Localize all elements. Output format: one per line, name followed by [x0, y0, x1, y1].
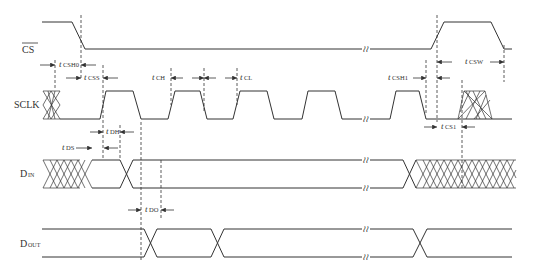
- timing-css: t CSS: [66, 72, 118, 82]
- svg-text:CSH1: CSH1: [392, 74, 408, 81]
- svg-text:CH: CH: [156, 74, 165, 81]
- svg-text:DS: DS: [66, 144, 75, 151]
- svg-text:CS: CS: [22, 44, 34, 55]
- sclk-label: SCLK: [14, 99, 40, 110]
- break-icon: ≀≀: [362, 183, 369, 193]
- svg-text:t: t: [441, 121, 444, 131]
- svg-text:DH: DH: [110, 128, 120, 135]
- svg-text:CL: CL: [244, 74, 252, 81]
- break-icon: ≀≀: [362, 252, 369, 262]
- break-icon: ≀≀: [362, 44, 369, 54]
- timing-csh1: t CSH1: [388, 72, 450, 82]
- din-dont-care-late: [416, 160, 516, 188]
- svg-text:D: D: [20, 168, 27, 179]
- sclk-dont-care-region: [43, 91, 60, 119]
- timing-cs1: t CS1: [424, 121, 475, 131]
- reference-lines: [55, 15, 504, 260]
- svg-text:IN: IN: [28, 172, 35, 178]
- din-dont-care-region: [43, 160, 92, 188]
- cs-waveform: [42, 22, 512, 49]
- timing-csh0: t CSH0: [40, 59, 96, 69]
- timing-ds: t DS: [62, 142, 92, 152]
- svg-text:CS1: CS1: [445, 123, 456, 130]
- svg-text:t: t: [106, 126, 109, 136]
- svg-text:DO: DO: [149, 206, 159, 213]
- svg-text:t: t: [388, 72, 391, 82]
- dout-label: D OUT: [20, 238, 41, 249]
- sclk-waveform: [43, 91, 512, 119]
- timing-dh: t DH: [90, 126, 134, 148]
- break-icon: ≀≀: [362, 155, 369, 165]
- din-label: D IN: [20, 168, 35, 179]
- din-waveform: [43, 160, 516, 188]
- svg-text:OUT: OUT: [28, 242, 41, 248]
- svg-text:CSS: CSS: [88, 74, 100, 81]
- svg-text:t: t: [84, 72, 87, 82]
- timing-do: t DO: [128, 204, 174, 214]
- svg-text:t: t: [145, 204, 148, 214]
- break-icon: ≀≀: [362, 224, 369, 234]
- svg-text:t: t: [152, 72, 155, 82]
- svg-text:t: t: [240, 72, 243, 82]
- break-icon: ≀≀: [362, 114, 369, 124]
- dout-waveform: [42, 229, 512, 257]
- break-symbols: ≀≀ ≀≀ ≀≀ ≀≀ ≀≀ ≀≀: [362, 44, 369, 262]
- timing-cl: t CL: [204, 72, 252, 82]
- cs-label: CS: [22, 43, 38, 55]
- svg-text:CSH0: CSH0: [63, 61, 79, 68]
- svg-text:D: D: [20, 238, 27, 249]
- timing-ch: t CH: [152, 72, 204, 82]
- timing-diagram: CS SCLK D IN D OUT: [0, 0, 533, 276]
- svg-text:t: t: [465, 56, 468, 66]
- svg-text:CSW: CSW: [469, 58, 484, 65]
- timing-csw: t CSW: [437, 56, 504, 66]
- svg-text:t: t: [62, 142, 65, 152]
- sclk-dont-care-pulse: [458, 91, 492, 119]
- svg-text:t: t: [59, 59, 62, 69]
